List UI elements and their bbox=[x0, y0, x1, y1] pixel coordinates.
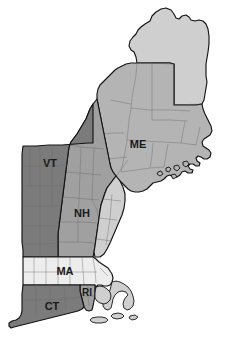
label-ct: CT bbox=[45, 300, 60, 312]
map-canvas: VT NH ME MA CT RI bbox=[0, 0, 247, 349]
label-me: ME bbox=[130, 138, 147, 150]
label-ma: MA bbox=[56, 265, 73, 277]
label-ri: RI bbox=[82, 287, 92, 298]
new-england-map: VT NH ME MA CT RI bbox=[0, 0, 247, 349]
label-vt: VT bbox=[43, 157, 57, 169]
label-nh: NH bbox=[74, 207, 90, 219]
